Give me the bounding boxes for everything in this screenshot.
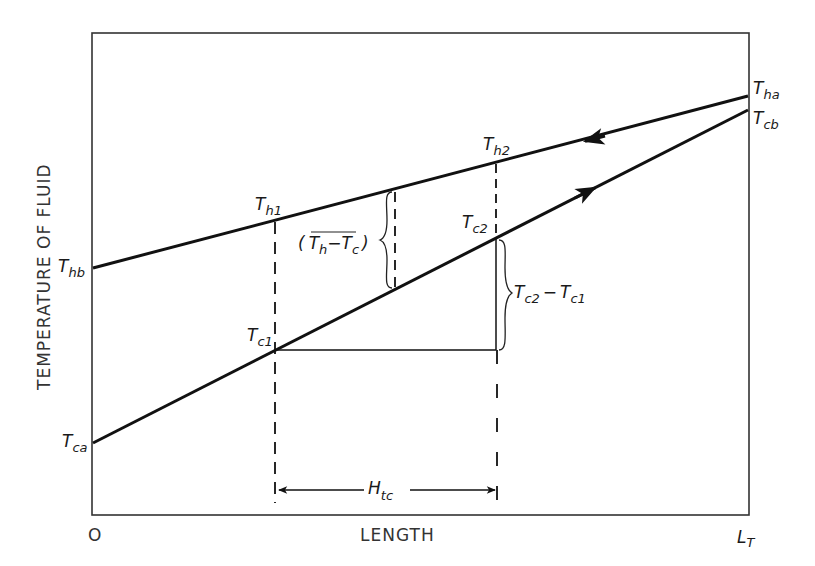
label-tca: Tca (62, 431, 88, 455)
label-th1: Th1 (255, 194, 282, 218)
cold-flow-arrow-icon (575, 188, 595, 198)
cold-temperature-rise-label: Tc2−Tc1 (514, 282, 586, 306)
label-tha: Tha (753, 78, 780, 102)
hot-fluid-line (93, 96, 748, 268)
label-thb: Thb (58, 256, 85, 280)
mean-temperature-difference-label: (Th−Tc) (298, 232, 369, 257)
label-tcb: Tcb (753, 108, 779, 132)
label-th2: Th2 (483, 134, 510, 158)
svg-text:(Th−Tc): (Th−Tc) (298, 233, 369, 257)
x-end-label: LT (737, 527, 755, 550)
cold-fluid-line (93, 110, 748, 443)
label-tc1: Tc1 (247, 325, 273, 349)
plot-frame (92, 33, 749, 515)
x-origin-label: O (88, 525, 101, 545)
mean-diff-brace-icon (380, 192, 392, 288)
htu-label: Htc (368, 478, 393, 503)
heat-exchanger-diagram: TEMPERATURE OF FLUID O LENGTH LT Thb Tca… (0, 0, 815, 566)
rise-brace-icon (499, 240, 512, 350)
y-axis-label: TEMPERATURE OF FLUID (34, 163, 54, 391)
x-axis-label: LENGTH (360, 525, 435, 545)
label-tc2: Tc2 (462, 212, 488, 236)
